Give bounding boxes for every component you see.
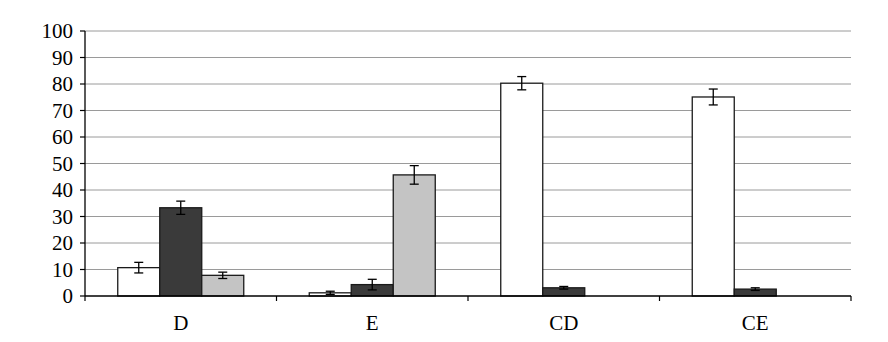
bar-chart: 0102030405060708090100 DECDCE [0, 0, 888, 342]
x-axis-labels: DECDCE [173, 311, 769, 335]
y-axis-ticks: 0102030405060708090100 [42, 19, 86, 308]
y-tick-label: 0 [63, 284, 74, 308]
y-tick-label: 100 [42, 19, 74, 43]
bar-D-series-2 [160, 208, 202, 296]
y-tick-label: 10 [52, 258, 73, 282]
y-tick-label: 90 [52, 46, 73, 70]
x-label-E: E [366, 311, 379, 335]
y-tick-label: 40 [52, 178, 73, 202]
x-label-CE: CE [742, 311, 769, 335]
bars [118, 77, 777, 296]
y-tick-label: 80 [52, 72, 73, 96]
y-tick-label: 30 [52, 205, 73, 229]
bar-CD-series-1 [501, 83, 543, 296]
y-tick-label: 20 [52, 231, 73, 255]
x-label-CD: CD [549, 311, 578, 335]
y-tick-label: 70 [52, 99, 73, 123]
bar-E-series-3 [393, 175, 435, 296]
y-tick-label: 60 [52, 125, 73, 149]
x-label-D: D [173, 311, 188, 335]
y-tick-label: 50 [52, 152, 73, 176]
bar-CE-series-1 [692, 97, 734, 296]
